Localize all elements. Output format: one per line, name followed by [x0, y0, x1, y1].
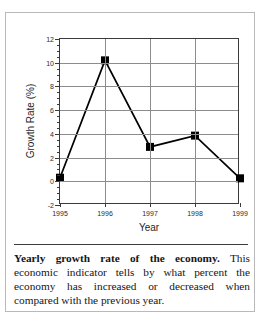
y-tick-minor	[57, 199, 60, 200]
y-tick-major	[55, 63, 60, 64]
y-tick-minor	[57, 75, 60, 76]
y-tick-major	[55, 39, 60, 40]
x-tick-label: 1998	[187, 210, 203, 217]
y-tick-minor	[57, 164, 60, 165]
y-tick-minor	[57, 98, 60, 99]
y-tick-minor	[57, 69, 60, 70]
y-tick-major	[55, 158, 60, 159]
figure-caption: Yearly growth rate of the economy. This …	[14, 251, 250, 307]
y-tick-minor	[57, 140, 60, 141]
y-tick-label: 4	[50, 130, 54, 137]
y-tick-label: 10	[46, 59, 54, 66]
x-tick	[195, 203, 196, 207]
y-tick-minor	[57, 51, 60, 52]
x-tick-label: 1997	[142, 210, 158, 217]
y-tick-label: 0	[50, 178, 54, 185]
y-tick-minor	[57, 81, 60, 82]
x-tick	[60, 203, 61, 207]
y-tick-minor	[57, 104, 60, 105]
chart-block: Growth Rate (%) -20246810121995199619971…	[6, 13, 254, 241]
y-gridline	[60, 110, 238, 111]
y-gridline	[60, 181, 238, 182]
x-tick	[240, 203, 241, 207]
caption-lead-text: Yearly growth rate of the economy.	[14, 252, 220, 264]
y-tick-label: 8	[50, 83, 54, 90]
y-tick-minor	[57, 169, 60, 170]
y-gridline	[60, 86, 238, 87]
x-tick	[105, 203, 106, 207]
y-tick-label: 2	[50, 154, 54, 161]
y-tick-major	[55, 86, 60, 87]
y-gridline	[60, 63, 238, 64]
x-tick-label: 1996	[97, 210, 113, 217]
x-tick-label: 1999	[232, 210, 248, 217]
y-axis-title: Growth Rate (%)	[23, 38, 37, 204]
x-gridline	[195, 39, 196, 203]
figure-frame: Growth Rate (%) -20246810121995199619971…	[5, 12, 255, 312]
y-tick-minor	[57, 146, 60, 147]
y-tick-minor	[57, 187, 60, 188]
y-tick-label: 12	[46, 36, 54, 43]
y-tick-minor	[57, 122, 60, 123]
caption-divider	[14, 244, 248, 245]
y-tick-minor	[57, 193, 60, 194]
y-tick-major	[55, 134, 60, 135]
y-tick-minor	[57, 128, 60, 129]
x-tick	[150, 203, 151, 207]
y-tick-label: 6	[50, 107, 54, 114]
y-gridline	[60, 158, 238, 159]
y-tick-minor	[57, 57, 60, 58]
y-tick-minor	[57, 45, 60, 46]
x-tick-label: 1995	[52, 210, 68, 217]
x-axis-title: Year	[59, 222, 239, 233]
x-gridline	[105, 39, 106, 203]
y-tick-minor	[57, 175, 60, 176]
y-tick-minor	[57, 152, 60, 153]
y-tick-major	[55, 181, 60, 182]
x-gridline	[150, 39, 151, 203]
y-tick-major	[55, 110, 60, 111]
plot-area: -202468101219951996199719981999	[59, 38, 239, 204]
y-tick-label: -2	[48, 202, 54, 209]
y-tick-minor	[57, 92, 60, 93]
y-gridline	[60, 134, 238, 135]
y-tick-minor	[57, 116, 60, 117]
